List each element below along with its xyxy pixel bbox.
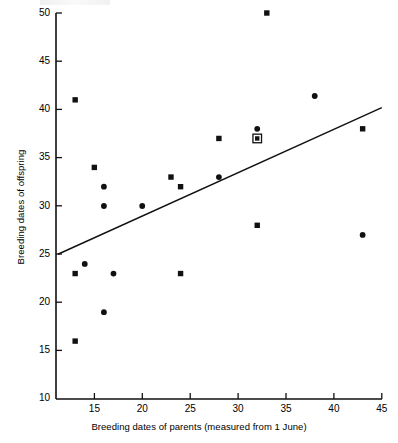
- y-tick-label-15: 15: [28, 344, 50, 355]
- y-tick-label-40: 40: [28, 103, 50, 114]
- scatter-plot-figure: 50 45 40 35 30 25 20 15 10 15 20 25 30 3…: [0, 0, 398, 443]
- x-axis-label: Breeding dates of parents (measured from…: [0, 421, 398, 432]
- x-tick-label-30: 30: [225, 403, 251, 414]
- y-tick-label-20: 20: [28, 296, 50, 307]
- regression-line: [58, 108, 382, 255]
- data-point-circle: [216, 174, 222, 180]
- data-point-circle: [254, 126, 260, 132]
- data-point-circle: [360, 232, 366, 238]
- y-axis-ticks: [56, 13, 62, 350]
- y-tick-label-30: 30: [28, 200, 50, 211]
- data-point-circle: [101, 309, 107, 315]
- data-point-square: [360, 126, 365, 131]
- data-point-square: [92, 165, 97, 170]
- x-tick-label-35: 35: [273, 403, 299, 414]
- data-point-square: [72, 97, 77, 102]
- data-point-square: [72, 271, 77, 276]
- data-point-square: [72, 338, 77, 343]
- y-tick-label-50: 50: [28, 7, 50, 18]
- data-point-circle: [312, 93, 318, 99]
- data-markers-layer: [72, 10, 365, 344]
- data-point-square: [264, 10, 269, 15]
- x-tick-label-15: 15: [81, 403, 107, 414]
- data-point-circle: [139, 203, 145, 209]
- plot-canvas: [0, 0, 398, 443]
- y-axis-label: Breeding dates of offspring: [15, 150, 26, 265]
- data-point-circle: [82, 261, 88, 267]
- data-point-square: [178, 271, 183, 276]
- y-axis-label-wrapper: Breeding dates of offspring: [10, 92, 28, 322]
- x-tick-label-45: 45: [369, 403, 395, 414]
- x-tick-label-25: 25: [177, 403, 203, 414]
- data-point-circle: [101, 203, 107, 209]
- data-point-square: [178, 184, 183, 189]
- data-point-square-with-circle: [253, 134, 262, 143]
- regression-line-layer: [58, 108, 382, 255]
- data-point-square: [255, 223, 260, 228]
- x-tick-label-20: 20: [129, 403, 155, 414]
- data-point-square: [168, 174, 173, 179]
- x-axis-ticks: [94, 393, 381, 399]
- x-tick-label-40: 40: [321, 403, 347, 414]
- y-tick-label-35: 35: [28, 151, 50, 162]
- data-point-circle: [111, 271, 117, 277]
- data-point-square: [216, 136, 221, 141]
- y-tick-label-45: 45: [28, 55, 50, 66]
- y-tick-label-25: 25: [28, 248, 50, 259]
- marker-inner-square: [255, 136, 259, 140]
- y-tick-label-10: 10: [28, 392, 50, 403]
- data-point-circle: [101, 184, 107, 190]
